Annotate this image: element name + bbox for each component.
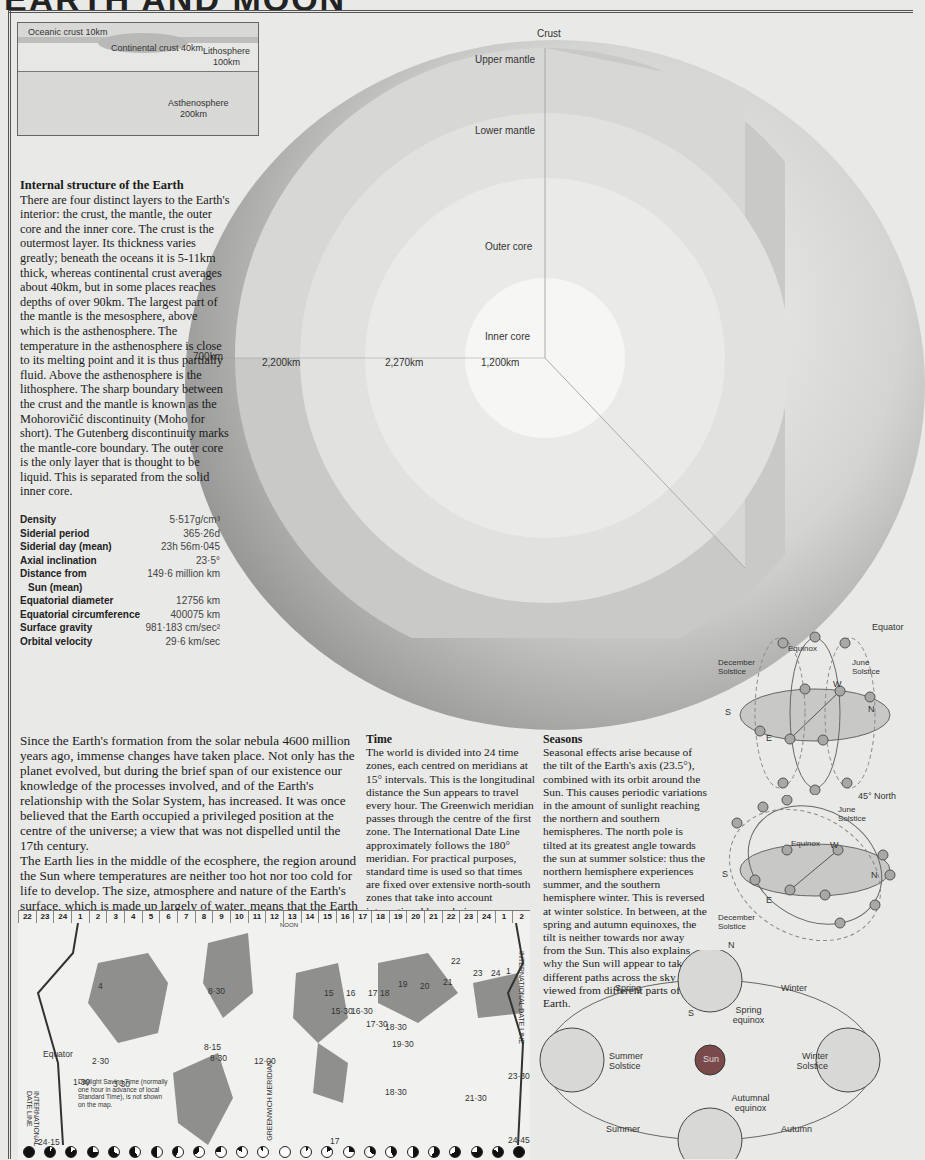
label-equinox-45: Equinox xyxy=(791,839,820,848)
label-lithosphere: Lithosphere xyxy=(203,46,250,56)
internal-structure-heading: Internal structure of the Earth xyxy=(20,178,230,193)
stat-row: Distance from149·6 million km xyxy=(20,567,220,581)
label-west-45: W xyxy=(830,840,839,850)
label-north-45: N xyxy=(871,870,878,880)
label-june-solstice-45: June Solstice xyxy=(838,805,878,823)
label-asthenosphere-depth: 200km xyxy=(180,109,207,119)
stat-row: Equatorial diameter12756 km xyxy=(20,594,220,608)
zone-label: 18·30 xyxy=(385,1022,407,1032)
zone-label: 1·30 xyxy=(73,1077,90,1087)
zone-label: 18 xyxy=(380,988,389,998)
zone-label: 23 xyxy=(473,968,482,978)
label-south: S xyxy=(725,707,731,717)
label-december-solstice: December Solstice xyxy=(718,658,763,676)
label-winter-solstice: Winter Solstice xyxy=(783,1051,828,1071)
label-crust: Crust xyxy=(537,28,561,39)
stat-row: Sun (mean) xyxy=(20,581,220,595)
seasons-heading: Seasons xyxy=(543,733,708,746)
time-text: The world is divided into 24 time zones,… xyxy=(366,746,538,918)
label-autumn: Autumn xyxy=(781,1124,812,1134)
zone-label: 4 xyxy=(98,981,103,991)
label-oceanic-crust: Oceanic crust 10km xyxy=(28,27,108,37)
label-lower-mantle: Lower mantle xyxy=(475,125,535,136)
zone-label: 24 xyxy=(491,968,500,978)
label-inner-core: Inner core xyxy=(485,331,530,342)
zone-label: 15 xyxy=(324,988,333,998)
zone-label: 19 xyxy=(398,979,407,989)
label-equinox: Equinox xyxy=(788,644,817,653)
thickness-outer-core: 2,270km xyxy=(385,357,423,368)
zone-label: 2·30 xyxy=(92,1056,109,1066)
zone-label: 23·30 xyxy=(508,1071,530,1081)
label-date-line-east: INTERNATIONAL DATE LINE xyxy=(518,951,525,1044)
daylight-clock-row xyxy=(18,1146,530,1160)
thickness-mantle: 2,200km xyxy=(262,357,300,368)
label-june-solstice: June Solstice xyxy=(852,658,892,676)
label-sun: Sun xyxy=(703,1054,719,1064)
zone-label: 3·30 xyxy=(113,1079,130,1089)
label-equator: Equator xyxy=(872,622,904,632)
zone-label: 24·45 xyxy=(508,1135,530,1145)
label-outer-core: Outer core xyxy=(485,241,532,252)
time-section: Time The world is divided into 24 time z… xyxy=(366,733,538,918)
earth-stats-table: Density5·517g/cm³ Siderial period365·26d… xyxy=(20,513,220,648)
label-north: N xyxy=(868,704,875,714)
internal-structure-section: Internal structure of the Earth There ar… xyxy=(20,178,230,499)
stat-row: Siderial period365·26d xyxy=(20,527,220,541)
zone-label: 16·30 xyxy=(351,1006,373,1016)
label-orbit-s: S xyxy=(688,1008,694,1018)
zone-label: 8·30 xyxy=(208,986,225,996)
stat-row: Density5·517g/cm³ xyxy=(20,513,220,527)
label-autumnal-equinox: Autumnal equinox xyxy=(723,1093,778,1113)
thickness-inner-core: 1,200km xyxy=(481,357,519,368)
label-map-equator: Equator xyxy=(43,1049,73,1059)
zone-label: 22 xyxy=(451,956,460,966)
sky-diagram-45-north xyxy=(715,795,910,955)
zone-number-row: 2223241234567891011121314151617181920212… xyxy=(18,911,530,923)
label-orbit-n: N xyxy=(728,940,735,950)
label-noon: NOON xyxy=(280,922,298,928)
zone-label: 19·30 xyxy=(392,1039,414,1049)
frame-border-top xyxy=(8,10,913,13)
stat-row: Orbital velocity29·6 km/sec xyxy=(20,635,220,649)
zone-label: 17 xyxy=(330,1136,339,1146)
zone-label: 15·30 xyxy=(331,1006,353,1016)
time-heading: Time xyxy=(366,733,538,746)
zone-label: 8·15 xyxy=(204,1042,221,1052)
zone-label: 8·30 xyxy=(210,1053,227,1063)
label-south-45: S xyxy=(722,869,728,879)
frame-border-left xyxy=(8,10,11,1159)
label-spring-equinox: Spring equinox xyxy=(726,1005,771,1025)
zone-label: 21 xyxy=(443,977,452,987)
label-continental-crust: Continental crust 40km xyxy=(111,43,203,53)
label-winter: Winter xyxy=(781,983,807,993)
label-greenwich-meridian: GREENWICH MERIDIAN xyxy=(266,1061,273,1141)
label-east-45: E xyxy=(766,895,772,905)
label-west: W xyxy=(833,679,842,689)
stat-row: Axial inclination23·5° xyxy=(20,554,220,568)
label-upper-mantle: Upper mantle xyxy=(475,54,535,65)
zone-label: 17 xyxy=(368,988,377,998)
internal-structure-text: There are four distinct layers to the Ea… xyxy=(20,193,230,499)
zone-label: 16 xyxy=(346,988,355,998)
label-december-solstice-45: December Solstice xyxy=(718,913,763,931)
label-spring: Spring xyxy=(615,983,641,993)
label-asthenosphere: Asthenosphere xyxy=(168,98,229,108)
label-lithosphere-depth: 100km xyxy=(213,57,240,67)
zone-label: 21·30 xyxy=(465,1093,487,1103)
stat-row: Surface gravity981·183 cm/sec² xyxy=(20,621,220,635)
crust-inset-diagram xyxy=(17,22,259,136)
stat-row: Siderial day (mean)23h 56m·045 xyxy=(20,540,220,554)
zone-label: 18·30 xyxy=(385,1087,407,1097)
label-summer-solstice: Summer Solstice xyxy=(609,1051,654,1071)
intro-text: Since the Earth's formation from the sol… xyxy=(20,733,360,928)
time-zone-map: 2223241234567891011121314151617181920212… xyxy=(18,910,530,1160)
orbit-diagram xyxy=(530,950,913,1159)
label-east: E xyxy=(766,733,772,743)
stat-row: Equatorial circumference400075 km xyxy=(20,608,220,622)
label-45-north: 45° North xyxy=(858,791,896,801)
page-title: EARTH AND MOON xyxy=(0,0,913,10)
zone-label: 1 xyxy=(506,966,511,976)
label-summer: Summer xyxy=(606,1124,640,1134)
zone-label: 20 xyxy=(420,981,429,991)
